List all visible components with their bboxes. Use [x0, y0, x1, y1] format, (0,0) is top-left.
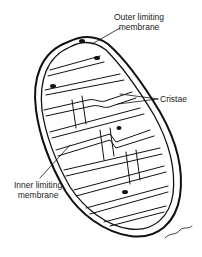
mitochondrion-diagram: [0, 0, 202, 257]
artist-signature: [165, 226, 192, 238]
label-line: Outer limiting: [114, 12, 164, 22]
label-outer-limiting-membrane: Outer limiting membrane: [114, 12, 164, 32]
label-line: Inner limiting: [14, 180, 62, 190]
label-inner-limiting-membrane: Inner limiting membrane: [14, 180, 62, 200]
label-cristae: Cristae: [160, 94, 187, 104]
label-line: membrane: [114, 22, 164, 32]
label-line: membrane: [14, 190, 62, 200]
